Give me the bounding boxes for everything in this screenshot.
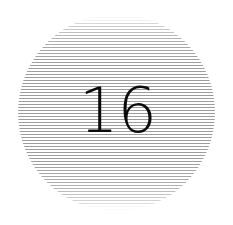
stripe (18, 107, 215, 108)
stripe (18, 44, 215, 45)
stripe (18, 68, 215, 69)
striped-circle-graphic (18, 14, 215, 211)
striped-circle-badge (18, 14, 215, 211)
stripe (18, 83, 215, 84)
stripe (18, 80, 215, 81)
stripe (18, 110, 215, 111)
stripe (18, 77, 215, 78)
stripe (18, 173, 215, 174)
stripe (18, 170, 215, 171)
image-canvas: 16 (0, 0, 233, 225)
stripe (18, 158, 215, 159)
stripe (18, 140, 215, 141)
stripe (18, 125, 215, 126)
stripe (18, 47, 215, 48)
stripe (18, 134, 215, 135)
stripe (18, 98, 215, 99)
stripe (18, 86, 215, 87)
stripe (18, 101, 215, 102)
stripe (18, 137, 215, 138)
stripe (18, 122, 215, 123)
stripe (18, 128, 215, 129)
stripe (18, 71, 215, 72)
stripe (18, 146, 215, 147)
stripe (18, 179, 215, 180)
stripe (18, 143, 215, 144)
stripe (18, 89, 215, 90)
stripe (18, 116, 215, 117)
stripe (18, 59, 215, 60)
stripe (18, 74, 215, 75)
stripe (18, 56, 215, 57)
stripe (18, 62, 215, 63)
disc-background (18, 14, 215, 211)
stripe (18, 164, 215, 165)
stripe (18, 50, 215, 51)
stripe (18, 113, 215, 114)
stripe (18, 119, 215, 120)
stripe (18, 149, 215, 150)
stripe (18, 161, 215, 162)
stripe (18, 155, 215, 156)
stripe (18, 92, 215, 93)
stripe (18, 152, 215, 153)
stripe (18, 131, 215, 132)
stripe (18, 104, 215, 105)
stripe (18, 53, 215, 54)
stripe (18, 95, 215, 96)
stripe (18, 176, 215, 177)
stripe (18, 167, 215, 168)
stripe (18, 65, 215, 66)
